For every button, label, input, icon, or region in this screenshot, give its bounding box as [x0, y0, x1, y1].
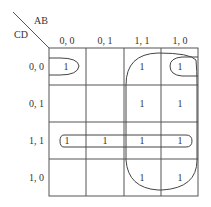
col-variable-label: AB: [34, 15, 48, 26]
cell-r2-c2: 1: [140, 135, 145, 146]
col-label-00: 0, 0: [60, 35, 75, 46]
row-label-10: 1, 0: [29, 172, 44, 183]
col-label-01: 0, 1: [98, 35, 113, 46]
col-label-11: 1, 1: [135, 35, 150, 46]
corner-wrap-group-right: [170, 57, 198, 76]
karnaugh-map: AB CD 0, 0 0, 1 1, 1 1, 0 0, 0 0, 1 1, 1…: [0, 0, 211, 207]
row-label-11: 1, 1: [29, 135, 44, 146]
row-label-00: 0, 0: [29, 61, 44, 72]
cell-r1-c3: 1: [178, 98, 183, 109]
cell-r0-c2: 1: [140, 61, 145, 72]
col-label-10: 1, 0: [173, 35, 188, 46]
cell-r2-c3: 1: [178, 135, 183, 146]
cell-r3-c2: 1: [140, 172, 145, 183]
kmap-grid: [49, 48, 198, 196]
row-label-01: 0, 1: [29, 98, 44, 109]
row-variable-label: CD: [14, 29, 28, 40]
cell-r2-c0: 1: [65, 135, 70, 146]
cell-r0-c3: 1: [178, 61, 183, 72]
cell-r0-c0: 1: [64, 61, 69, 72]
cell-r3-c3: 1: [178, 172, 183, 183]
cell-r2-c1: 1: [103, 135, 108, 146]
cell-r1-c2: 1: [140, 98, 145, 109]
